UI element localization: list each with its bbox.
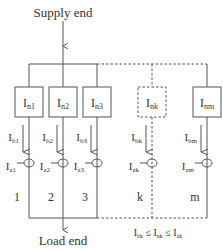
capacity-label: Iz1 — [6, 160, 17, 174]
branch-number: k — [137, 190, 143, 204]
branch-number: m — [190, 190, 200, 204]
branch-number: 1 — [14, 190, 20, 204]
capacity-label: Iz2 — [40, 160, 51, 174]
branch-number: 2 — [48, 190, 54, 204]
branch-m: InmIbmIzmm — [182, 64, 221, 218]
capacity-label: Iz3 — [74, 160, 85, 174]
inequality-label: Ibk ≤ Ink ≤ Izk — [134, 227, 183, 239]
flow-current-label: Ibm — [184, 131, 197, 145]
device-label: In2 — [57, 96, 69, 111]
capacity-label: Izk — [129, 160, 140, 174]
load-end-label: Load end — [39, 233, 88, 248]
branch-3: In3Ib3Iz33 — [74, 64, 111, 218]
device-label: In3 — [91, 96, 103, 111]
device-label: In1 — [23, 96, 35, 111]
flow-current-label: Ib2 — [42, 131, 53, 145]
flow-current-label: Ib3 — [76, 131, 87, 145]
branch-k: InkIbkIzkk — [129, 64, 166, 218]
flow-current-label: Ibk — [131, 131, 142, 145]
capacity-label: Izm — [182, 160, 195, 174]
supply-end-label: Supply end — [34, 5, 93, 20]
flow-current-label: Ib1 — [8, 131, 19, 145]
branch-number: 3 — [82, 190, 88, 204]
circuit-diagram: Supply end Load end Ibk ≤ Ink ≤ Izk In1I… — [0, 0, 223, 250]
device-label: Ink — [146, 96, 158, 111]
branch-1: In1Ib1Iz11 — [6, 64, 43, 218]
device-label: Inm — [200, 96, 215, 111]
branch-2: In2Ib2Iz22 — [40, 64, 77, 218]
branches: In1Ib1Iz11In2Ib2Iz22In3Ib3Iz33InkIbkIzkk… — [6, 64, 221, 218]
